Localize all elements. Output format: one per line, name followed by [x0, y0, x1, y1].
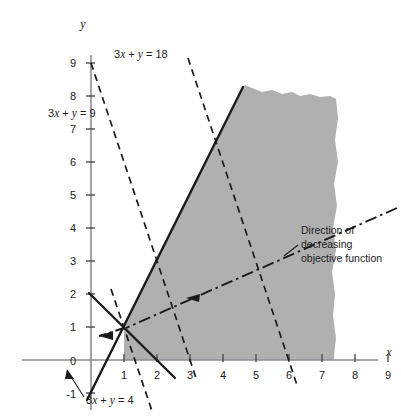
- x-label-9: 9: [385, 369, 391, 381]
- x-label-1: 1: [121, 369, 127, 381]
- x-label-6: 6: [286, 369, 292, 381]
- y-label-4: 4: [70, 222, 76, 234]
- x-label-2: 2: [154, 369, 160, 381]
- leader-arrowhead-eq4: [65, 369, 74, 379]
- y-label-3: 3: [70, 255, 76, 267]
- direction-text-line-3: objective function: [301, 252, 382, 264]
- y-label-5: 5: [70, 189, 76, 201]
- y-axis-label: y: [79, 17, 86, 31]
- direction-text-line-2: decreasing: [301, 238, 353, 250]
- feasible-region: [124, 85, 338, 360]
- y-label-8: 8: [70, 90, 76, 102]
- y-label-7: 7: [70, 123, 76, 135]
- y-label-2: 2: [70, 288, 76, 300]
- x-axis-label: x: [385, 345, 392, 359]
- label-3x-y-9: 3x + y = 9: [48, 107, 96, 120]
- x-label-8: 8: [352, 369, 358, 381]
- y-label-0: 0: [70, 355, 76, 367]
- linear-programming-figure: 1 2 3 4 5 6 7 8 9 1 2 3 4: [0, 0, 401, 416]
- label-3x-y-4: 3x + y = 4: [86, 394, 134, 407]
- direction-text-line-1: Direction of: [301, 224, 354, 236]
- y-label-9: 9: [70, 57, 76, 69]
- y-label-6: 6: [70, 156, 76, 168]
- y-label-1: 1: [70, 321, 76, 333]
- y-label-minus-1: -1: [66, 388, 76, 400]
- direction-arrowhead-left: [99, 331, 113, 340]
- x-label-5: 5: [253, 369, 259, 381]
- x-axis-tick-labels: 1 2 3 4 5 6 7 8 9: [121, 369, 391, 381]
- label-3x-y-18: 3x + y = 18: [114, 48, 168, 61]
- x-label-7: 7: [319, 369, 325, 381]
- x-label-4: 4: [220, 369, 226, 381]
- plot-canvas: 1 2 3 4 5 6 7 8 9 1 2 3 4: [0, 0, 401, 416]
- x-label-3: 3: [187, 369, 193, 381]
